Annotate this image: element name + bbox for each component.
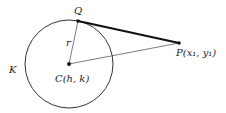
- label-q: Q: [74, 5, 82, 16]
- segment-cp: [69, 43, 179, 64]
- tangent-diagram: Q r K C(h, k) P(x₁, y₁): [0, 0, 226, 113]
- label-center: C(h, k): [55, 73, 89, 84]
- point-q: [76, 19, 80, 23]
- point-p: [177, 41, 181, 45]
- tangent-segment-qp: [78, 21, 179, 43]
- label-p: P(x₁, y₁): [175, 47, 216, 58]
- center-point: [67, 62, 71, 66]
- label-r: r: [66, 37, 72, 48]
- label-k: K: [8, 64, 17, 75]
